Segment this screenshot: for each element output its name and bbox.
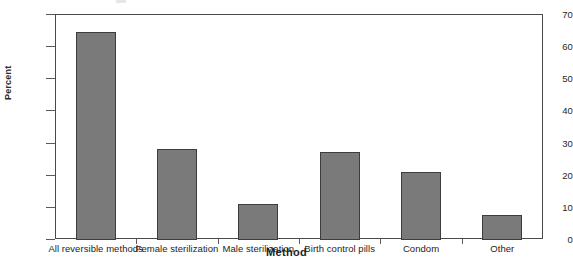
y-tick-mark	[46, 14, 55, 15]
bar	[320, 152, 360, 240]
x-tick-mark	[462, 239, 463, 244]
y-tick-mark	[46, 46, 55, 47]
y-tick-mark	[46, 175, 55, 176]
bar	[76, 32, 116, 240]
x-tick-mark	[299, 239, 300, 244]
x-axis-title: Method	[0, 246, 573, 258]
x-tick-mark	[380, 239, 381, 244]
y-tick-mark	[46, 239, 55, 240]
bar	[401, 172, 441, 240]
bar-chart: Percent 010203040506070 All reversible m…	[0, 0, 573, 261]
y-tick-mark	[46, 143, 55, 144]
bar	[157, 149, 197, 240]
plot-area	[55, 14, 543, 239]
bar	[482, 215, 522, 240]
y-tick-mark	[46, 207, 55, 208]
scan-artifact	[116, 0, 126, 3]
y-tick-mark	[46, 78, 55, 79]
y-axis-title: Percent	[3, 86, 13, 100]
y-tick-mark	[46, 110, 55, 111]
bar	[238, 204, 278, 240]
